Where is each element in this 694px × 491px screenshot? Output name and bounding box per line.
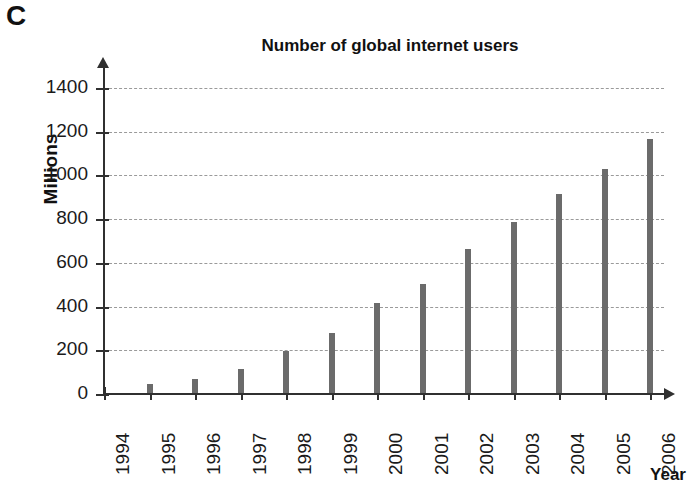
bar (329, 333, 335, 394)
gridline (104, 132, 664, 133)
x-axis-arrow-icon (664, 388, 675, 400)
gridline (104, 263, 664, 264)
x-tick-label: 2005 (613, 405, 635, 475)
bar (511, 222, 517, 394)
y-tick-label: 0 (18, 382, 88, 404)
bar (238, 369, 244, 394)
bar (283, 351, 289, 394)
gridline (104, 307, 664, 308)
y-tick-label: 600 (18, 251, 88, 273)
bar (556, 194, 562, 394)
x-tick-label: 1998 (294, 405, 316, 475)
x-tick-label: 2002 (476, 405, 498, 475)
x-tick-label: 1999 (340, 405, 362, 475)
y-axis-line (103, 64, 105, 395)
x-tick-label: 1996 (203, 405, 225, 475)
bar (647, 139, 653, 394)
x-tick-label: 1995 (158, 405, 180, 475)
x-tick-label: 1994 (112, 405, 134, 475)
x-tick-label: 2006 (658, 405, 680, 475)
gridline (104, 88, 664, 89)
y-tick-label: 1400 (18, 76, 88, 98)
x-tick-label: 2000 (385, 405, 407, 475)
y-tick-label: 200 (18, 338, 88, 360)
bar (420, 284, 426, 394)
y-tick-label: 800 (18, 207, 88, 229)
chart-figure: C Number of global internet users Millio… (0, 0, 694, 491)
y-tick-label: 1200 (18, 120, 88, 142)
x-tick-label: 2003 (522, 405, 544, 475)
x-tick-label: 1997 (249, 405, 271, 475)
x-tick-label: 2004 (567, 405, 589, 475)
gridline (104, 175, 664, 176)
y-tick-label: 1000 (18, 163, 88, 185)
bar (374, 303, 380, 394)
gridline (104, 350, 664, 351)
gridline (104, 219, 664, 220)
bar (602, 169, 608, 394)
bar (192, 379, 198, 394)
y-axis-arrow-icon (97, 57, 109, 68)
bar (465, 249, 471, 394)
x-tick-label: 2001 (431, 405, 453, 475)
x-axis-line (103, 393, 666, 395)
y-tick-label: 400 (18, 295, 88, 317)
panel-letter: C (6, 2, 26, 30)
chart-title: Number of global internet users (120, 36, 660, 56)
